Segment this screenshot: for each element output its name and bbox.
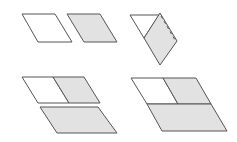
panel-folded-parallelogram xyxy=(130,13,177,65)
panel-stacked-parallelograms xyxy=(22,77,117,133)
panel-combined-parallelogram xyxy=(131,78,227,131)
gray-lower xyxy=(40,107,117,133)
gray-parallelogram xyxy=(67,14,117,42)
gray-bottom xyxy=(147,104,227,131)
parallelogram-diagram xyxy=(0,0,237,142)
panel-separate-parallelograms xyxy=(22,14,117,42)
white-parallelogram xyxy=(22,14,72,42)
